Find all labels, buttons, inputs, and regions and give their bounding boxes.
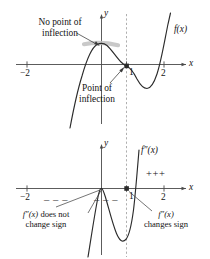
bottom-x-axis-label: x bbox=[189, 182, 193, 193]
bottom-function-label: f″(x) bbox=[141, 145, 158, 156]
annotation-sign-change: f″(x) changes sign bbox=[126, 210, 206, 229]
annotation-no-sign-change: f″(x) does not change sign bbox=[4, 210, 88, 229]
sign-negative-middle: – – – bbox=[94, 194, 118, 206]
annotation-point-of-inflection-line2: inflection bbox=[79, 94, 115, 104]
annotation-sign-change-fn: f″(x) bbox=[158, 209, 174, 219]
bottom-xtick-1: 1 bbox=[129, 191, 134, 202]
annotation-no-inflection-line2: inflection bbox=[42, 28, 78, 38]
top-xtick-minus2: −2 bbox=[20, 68, 30, 79]
sign-positive-right: +++ bbox=[146, 168, 166, 180]
annotation-no-sign-change-fn: f″(x) bbox=[23, 209, 39, 219]
annotation-no-inflection: No point of inflection bbox=[22, 17, 98, 38]
top-y-axis-arrow bbox=[100, 14, 103, 19]
top-function-label: f(x) bbox=[174, 24, 187, 35]
top-y-axis-label: y bbox=[104, 8, 108, 19]
bottom-xtick-minus2: −2 bbox=[20, 192, 30, 203]
top-xtick-1: 1 bbox=[129, 67, 134, 78]
annotation-point-of-inflection-line1: Point of bbox=[82, 83, 112, 93]
bottom-xtick-2: 2 bbox=[161, 192, 166, 203]
annotation-no-sign-change-line1: does not bbox=[38, 209, 69, 219]
top-x-axis-label: x bbox=[189, 58, 193, 69]
annotation-no-inflection-line1: No point of bbox=[38, 17, 81, 27]
annotation-no-sign-change-line2: change sign bbox=[26, 219, 67, 229]
annotation-point-of-inflection: Point of inflection bbox=[62, 83, 132, 104]
top-x-axis-arrow bbox=[182, 63, 187, 66]
top-xtick-2: 2 bbox=[161, 68, 166, 79]
bottom-y-axis-arrow bbox=[100, 144, 103, 149]
bottom-x-axis-arrow bbox=[182, 187, 187, 190]
annotation-sign-change-line2: changes sign bbox=[144, 219, 188, 229]
bottom-y-axis-label: y bbox=[104, 138, 108, 149]
sign-negative-left: – – – bbox=[44, 194, 68, 206]
